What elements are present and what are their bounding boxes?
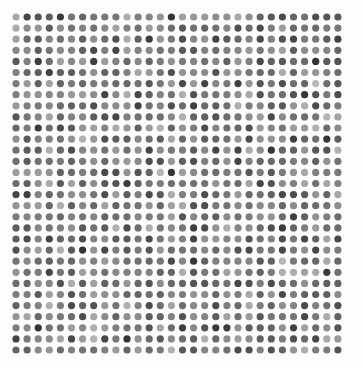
dot-grid-canvas [0,0,363,368]
dot-grid-figure [0,0,363,368]
